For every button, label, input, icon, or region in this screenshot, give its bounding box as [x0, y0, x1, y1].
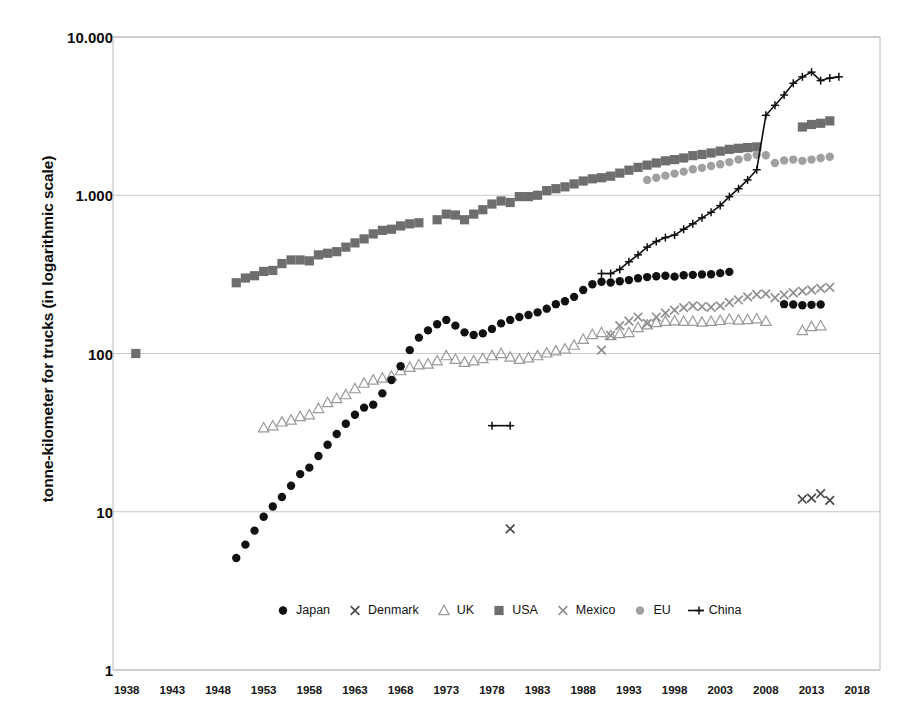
data-point [826, 153, 834, 161]
data-point [359, 378, 369, 387]
data-point [487, 350, 497, 359]
data-point [670, 169, 678, 177]
data-point [433, 215, 442, 224]
data-point [688, 316, 698, 325]
data-point [679, 153, 688, 162]
data-point [798, 122, 807, 131]
data-point [250, 271, 259, 280]
data-point [643, 273, 651, 281]
data-point [716, 147, 725, 156]
data-point [588, 280, 596, 288]
data-point [524, 192, 533, 201]
data-point [652, 174, 660, 182]
data-point [360, 234, 369, 243]
data-point [643, 161, 652, 170]
data-point [624, 166, 633, 175]
x-axis-tick-label: 1958 [297, 684, 323, 696]
data-point [497, 319, 505, 327]
data-point [789, 155, 797, 163]
data-point [250, 526, 258, 534]
x-axis-tick-label: 2018 [844, 684, 870, 696]
data-point [816, 300, 824, 308]
data-point [570, 293, 578, 301]
legend-item-uk[interactable]: UK [436, 604, 474, 617]
series-line [602, 72, 839, 273]
legend-marker-filled-square-icon [491, 604, 507, 617]
data-point [241, 540, 249, 548]
data-point [725, 158, 733, 166]
data-point [487, 199, 496, 208]
data-point [406, 346, 414, 354]
data-point [332, 393, 342, 402]
data-point [450, 354, 460, 363]
data-point [533, 308, 541, 316]
data-point [707, 270, 715, 278]
data-point [524, 311, 532, 319]
legend-item-denmark[interactable]: Denmark [347, 604, 419, 617]
data-point [451, 321, 459, 329]
data-point [551, 184, 560, 193]
x-axis-tick-label: 1978 [479, 684, 505, 696]
data-point [268, 266, 277, 275]
legend-item-eu[interactable]: EU [632, 604, 670, 617]
data-point [414, 218, 423, 227]
data-point [707, 162, 715, 170]
data-point [396, 362, 404, 370]
data-point [232, 554, 240, 562]
chart-container: tonne-kilometer for trucks (in logarithm… [0, 0, 911, 723]
data-point [560, 182, 569, 191]
data-point [643, 176, 651, 184]
legend-marker-x-cross-icon [347, 604, 363, 617]
data-point [588, 174, 597, 183]
data-point [495, 605, 504, 614]
x-axis-tick-label: 2003 [707, 684, 733, 696]
data-point [488, 325, 496, 333]
data-point [332, 247, 341, 256]
data-point [350, 383, 360, 392]
data-point [387, 225, 396, 234]
data-point [506, 198, 515, 207]
data-point [268, 420, 278, 429]
data-point [460, 328, 468, 336]
data-point [278, 493, 286, 501]
x-axis-tick-label: 1943 [160, 684, 186, 696]
data-point [634, 274, 642, 282]
legend-item-china[interactable]: China [688, 604, 742, 617]
data-point [679, 167, 687, 175]
data-point [333, 430, 341, 438]
data-point [439, 605, 449, 614]
data-point [351, 411, 359, 419]
x-axis-tick-label: 1993 [616, 684, 642, 696]
legend-item-japan[interactable]: Japan [275, 604, 330, 617]
data-point [752, 313, 762, 322]
data-point [405, 362, 415, 371]
data-point [579, 286, 587, 294]
data-point [697, 150, 706, 159]
x-axis-tick-label: 1938 [114, 684, 140, 696]
legend-item-usa[interactable]: USA [491, 604, 538, 617]
data-point [597, 278, 605, 286]
x-axis-tick-label: 1988 [570, 684, 596, 696]
data-point [552, 300, 560, 308]
data-point [670, 272, 678, 280]
series-mexico [597, 283, 834, 354]
data-point [678, 316, 688, 325]
data-point [314, 452, 322, 460]
data-point [341, 243, 350, 252]
data-point [232, 278, 241, 287]
data-point [542, 186, 551, 195]
data-point [506, 316, 514, 324]
legend-label: Denmark [368, 604, 419, 617]
legend-label: Japan [296, 604, 330, 617]
data-point [561, 297, 569, 305]
chart-legend: JapanDenmarkUKUSAMexicoEUChina [275, 599, 742, 621]
data-point [478, 353, 488, 362]
legend-marker-open-triangle-icon [436, 604, 452, 617]
legend-item-mexico[interactable]: Mexico [555, 604, 616, 617]
data-point [579, 176, 588, 185]
data-point [706, 148, 715, 157]
data-point [816, 154, 824, 162]
data-point [724, 314, 734, 323]
data-point [287, 482, 295, 490]
data-point [279, 606, 287, 614]
